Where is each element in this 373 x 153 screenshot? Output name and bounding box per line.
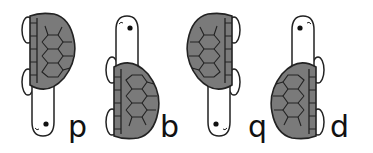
letter-p: p — [68, 112, 87, 142]
turtle-icon — [268, 12, 328, 142]
turtle-figure-b — [102, 12, 162, 146]
turtle-icon — [102, 12, 162, 142]
letter-q: q — [248, 112, 267, 142]
letter-d: d — [330, 112, 349, 142]
turtle-icon — [184, 10, 244, 140]
turtle-figure-d — [268, 12, 328, 146]
turtle-figure-q — [184, 10, 244, 144]
letter-b: b — [160, 112, 179, 142]
